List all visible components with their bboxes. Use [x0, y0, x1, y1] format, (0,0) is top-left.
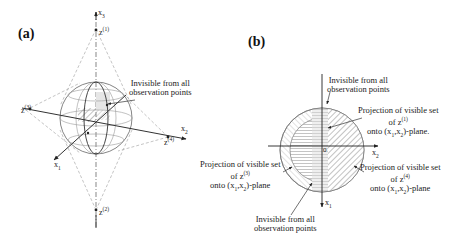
axis-x3-label: x3	[98, 8, 105, 19]
panel-a-invisible-annotation: Invisible from all observation points	[129, 79, 192, 97]
annotation-line: onto (x1,x2)-plane	[360, 184, 441, 197]
panel-a-drawing	[22, 12, 186, 228]
figure: (a) x3 z(1) z(2) z(3) z(4) x2 x1 Invisib…	[0, 0, 453, 242]
point-z3-label: z(3)	[21, 104, 31, 115]
projection-z3-annotation: Projection of visible set of z(3) onto (…	[200, 160, 281, 194]
origin-label: 0	[323, 146, 327, 154]
annotation-line: Projection of visible set	[358, 106, 439, 115]
panel-a-label: (a)	[18, 26, 34, 42]
axis-x1-label-b: x1	[325, 198, 332, 209]
point-z1-label: z(1)	[99, 26, 109, 37]
annotation-line: observation points	[327, 85, 390, 94]
projection-z1-annotation: Projection of visible set of z(1) onto (…	[358, 106, 439, 140]
axis-x2-label-b: x2	[372, 148, 379, 159]
point-z2-label: z(2)	[99, 206, 109, 217]
annotation-line: onto (x1,x2)-plane.	[358, 127, 439, 140]
annotation-line: observation points	[254, 224, 317, 233]
annotation-line: Projection of visible set	[200, 160, 281, 169]
projection-z4-annotation: Projection of visible set of z(4) onto (…	[360, 163, 441, 197]
annotation-line: Projection of visible set	[360, 163, 441, 172]
axis-x1-label: x1	[54, 160, 61, 171]
annotation-line: observation points	[129, 88, 192, 97]
point-z4-label: z(4)	[164, 136, 174, 147]
panel-b-label: (b)	[248, 34, 265, 50]
annotation-line: onto (x1,x2)-plane	[200, 181, 281, 194]
axis-x2-label: x2	[181, 124, 188, 135]
bottom-invisible-annotation: Invisible from all observation points	[254, 215, 317, 233]
top-invisible-annotation: Invisible from all observation points	[327, 76, 390, 94]
